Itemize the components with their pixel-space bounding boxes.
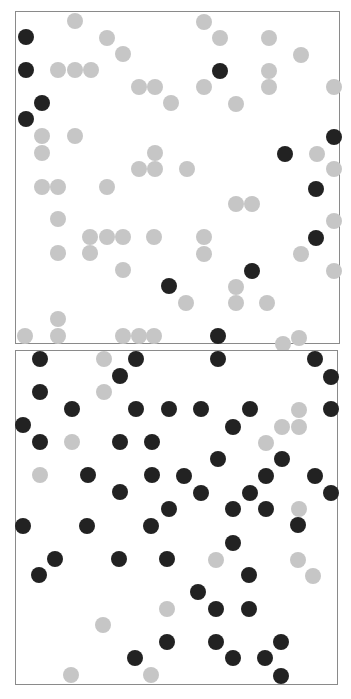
gray-dot (115, 229, 131, 245)
gray-dot (309, 146, 325, 162)
gray-dot (50, 211, 66, 227)
black-dot (80, 467, 96, 483)
gray-dot (83, 62, 99, 78)
black-dot (32, 384, 48, 400)
black-dot (257, 650, 273, 666)
gray-dot (115, 46, 131, 62)
black-dot (242, 485, 258, 501)
gray-dot (261, 63, 277, 79)
gray-dot (99, 229, 115, 245)
gray-dot (208, 552, 224, 568)
black-dot (208, 601, 224, 617)
gray-dot (99, 179, 115, 195)
black-dot (193, 485, 209, 501)
black-dot (308, 230, 324, 246)
black-dot (210, 351, 226, 367)
gray-dot (326, 263, 342, 279)
gray-dot (274, 419, 290, 435)
gray-dot (146, 229, 162, 245)
black-dot (47, 551, 63, 567)
black-dot (307, 468, 323, 484)
gray-dot (96, 351, 112, 367)
black-dot (112, 434, 128, 450)
gray-dot (291, 501, 307, 517)
gray-dot (291, 419, 307, 435)
black-dot (308, 181, 324, 197)
black-dot (290, 517, 306, 533)
black-dot (32, 351, 48, 367)
black-dot (273, 668, 289, 684)
black-dot (210, 451, 226, 467)
black-dot (225, 419, 241, 435)
gray-dot (159, 601, 175, 617)
gray-dot (67, 128, 83, 144)
black-dot (111, 551, 127, 567)
gray-dot (196, 246, 212, 262)
gray-dot (32, 467, 48, 483)
gray-dot (305, 568, 321, 584)
gray-dot (196, 229, 212, 245)
black-dot (79, 518, 95, 534)
gray-dot (147, 145, 163, 161)
gray-dot (50, 179, 66, 195)
gray-dot (50, 311, 66, 327)
black-dot (18, 111, 34, 127)
gray-dot (131, 161, 147, 177)
black-dot (128, 351, 144, 367)
black-dot (144, 434, 160, 450)
black-dot (144, 467, 160, 483)
gray-dot (261, 79, 277, 95)
black-dot (112, 368, 128, 384)
gray-dot (95, 617, 111, 633)
gray-dot (146, 328, 162, 344)
gray-dot (82, 229, 98, 245)
black-dot (193, 401, 209, 417)
scatter-plot-area (16, 351, 339, 686)
black-dot (241, 601, 257, 617)
gray-dot (82, 245, 98, 261)
black-dot (64, 401, 80, 417)
gray-dot (67, 62, 83, 78)
black-dot (307, 351, 323, 367)
black-dot (242, 401, 258, 417)
gray-dot (244, 196, 260, 212)
black-dot (143, 518, 159, 534)
black-dot (34, 95, 50, 111)
gray-dot (290, 552, 306, 568)
gray-dot (228, 196, 244, 212)
black-dot (159, 551, 175, 567)
gray-dot (67, 13, 83, 29)
gray-dot (228, 295, 244, 311)
black-dot (225, 535, 241, 551)
gray-dot (291, 330, 307, 346)
gray-dot (115, 328, 131, 344)
gray-dot (115, 262, 131, 278)
gray-dot (99, 30, 115, 46)
gray-dot (258, 435, 274, 451)
gray-dot (96, 384, 112, 400)
gray-dot (64, 434, 80, 450)
gray-dot (196, 14, 212, 30)
black-dot (212, 63, 228, 79)
black-dot (244, 263, 260, 279)
gray-dot (212, 30, 228, 46)
gray-dot (131, 79, 147, 95)
gray-dot (143, 667, 159, 683)
gray-dot (34, 128, 50, 144)
black-dot (161, 401, 177, 417)
black-dot (323, 401, 339, 417)
black-dot (18, 62, 34, 78)
black-dot (128, 401, 144, 417)
black-dot (323, 485, 339, 501)
gray-dot (196, 79, 212, 95)
gray-dot (179, 161, 195, 177)
black-dot (15, 518, 31, 534)
gray-dot (291, 402, 307, 418)
gray-dot (50, 328, 66, 344)
black-dot (210, 328, 226, 344)
black-dot (18, 29, 34, 45)
black-dot (273, 634, 289, 650)
black-dot (161, 278, 177, 294)
black-dot (323, 369, 339, 385)
top-scatter-panel (15, 11, 340, 344)
